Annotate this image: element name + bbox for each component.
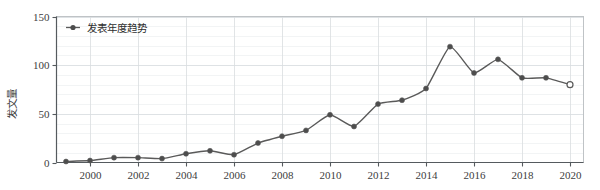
data-point-marker — [472, 70, 477, 75]
x-tick-label: 2006 — [224, 169, 247, 181]
y-tick-label: 150 — [33, 11, 50, 23]
data-series-group — [64, 44, 574, 164]
x-tick-label: 2010 — [320, 169, 343, 181]
y-tick-label: 50 — [39, 108, 51, 120]
data-point-marker — [64, 159, 69, 164]
y-axis-title: 发文量 — [6, 88, 18, 119]
legend: 发表年度趋势 — [66, 22, 148, 34]
data-point-marker — [352, 124, 357, 129]
x-tick-label: 2016 — [464, 169, 487, 181]
x-tick-label: 2008 — [272, 169, 295, 181]
x-tick-label: 2004 — [176, 169, 199, 181]
x-tick-label: 2014 — [416, 169, 439, 181]
y-axis-ticks: 050100150 — [33, 11, 57, 169]
x-axis-ticks: 2000200220042006200820102012201420162018… — [80, 163, 583, 181]
publication-trend-chart: 050100150 200020022004200620082010201220… — [0, 0, 600, 190]
plot-area-border — [57, 17, 584, 163]
vertical-gridlines — [91, 17, 571, 163]
data-point-marker — [136, 155, 141, 160]
x-tick-label: 2020 — [560, 169, 583, 181]
x-tick-label: 2018 — [512, 169, 535, 181]
data-point-marker — [184, 151, 189, 156]
x-tick-label: 2012 — [368, 169, 390, 181]
legend-label: 发表年度趋势 — [87, 22, 148, 34]
y-tick-label: 100 — [33, 59, 50, 71]
data-point-marker — [376, 102, 381, 107]
data-point-marker — [520, 75, 525, 80]
minor-gridlines — [57, 27, 584, 154]
data-point-marker — [88, 158, 93, 163]
data-point-marker — [160, 156, 165, 161]
data-point-marker — [280, 134, 285, 139]
data-point-marker — [328, 112, 333, 117]
data-point-marker — [304, 128, 309, 133]
data-point-marker — [256, 141, 261, 146]
series-line — [66, 47, 570, 162]
y-tick-label: 0 — [44, 157, 50, 169]
chart-canvas: 050100150 200020022004200620082010201220… — [0, 0, 600, 190]
x-tick-label: 2000 — [80, 169, 103, 181]
x-tick-label: 2002 — [128, 169, 150, 181]
data-point-marker — [544, 75, 549, 80]
data-point-marker — [400, 98, 405, 103]
legend-marker-icon — [70, 25, 75, 30]
data-point-marker — [424, 86, 429, 91]
data-point-marker — [208, 148, 213, 153]
data-point-marker-open — [567, 82, 573, 88]
data-point-marker — [448, 44, 453, 49]
data-point-marker — [232, 152, 237, 157]
data-point-marker — [496, 57, 501, 62]
data-point-marker — [112, 155, 117, 160]
